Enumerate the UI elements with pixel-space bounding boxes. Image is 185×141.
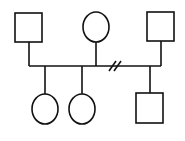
pedigree-diagram [0,0,185,141]
father-square [15,13,42,42]
son-square [136,93,163,123]
mother-circle [83,12,109,42]
daughter-1-circle [32,94,58,124]
daughter-2-circle [69,94,95,124]
second-partner-square [147,12,174,41]
